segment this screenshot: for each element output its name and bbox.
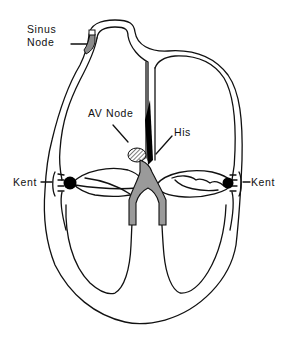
kent-right-label: Kent — [251, 176, 275, 189]
bundle-branches — [129, 160, 166, 225]
his-pointer — [156, 136, 172, 154]
right-atrium-inner-wall — [97, 27, 148, 160]
heart-illustration — [0, 0, 287, 337]
kent-right-bundle-lines — [239, 172, 241, 196]
heart-conduction-diagram: Sinus Node AV Node His Kent Kent — [0, 0, 287, 337]
his-label: His — [174, 126, 191, 139]
kent-left-bundle-lines — [53, 172, 55, 196]
kent-right-node — [223, 178, 234, 189]
right-ventricle-inner-wall — [66, 200, 134, 294]
left-ventricle-inner-wall — [160, 200, 226, 293]
sinus-node-label-line1: Sinus — [27, 23, 56, 36]
av-node — [128, 148, 146, 162]
av-node-label: AV Node — [88, 107, 133, 120]
kent-left-node — [64, 177, 77, 190]
septum-right-line — [155, 56, 235, 180]
sinus-node-label-line2: Node — [27, 36, 56, 49]
kent-left-label: Kent — [13, 176, 37, 189]
sinus-node-label: Sinus Node — [27, 23, 56, 49]
av-node-pointer — [113, 125, 128, 142]
